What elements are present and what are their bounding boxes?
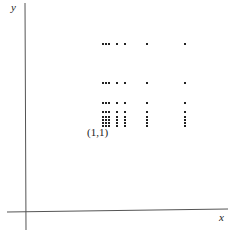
point-annotation-1-1: (1,1) xyxy=(87,127,108,138)
y-axis xyxy=(25,3,26,230)
data-point xyxy=(124,116,126,118)
scatter-plot xyxy=(0,0,232,241)
data-point xyxy=(105,119,107,121)
data-point xyxy=(146,102,148,104)
data-point xyxy=(108,82,110,84)
data-point xyxy=(105,116,107,118)
data-point xyxy=(124,111,126,113)
data-point xyxy=(102,102,104,104)
data-point xyxy=(146,82,148,84)
x-axis xyxy=(7,209,228,212)
data-point xyxy=(184,125,186,127)
data-point xyxy=(116,122,118,124)
data-point xyxy=(146,122,148,124)
data-point xyxy=(146,125,148,127)
data-point xyxy=(184,119,186,121)
data-point xyxy=(184,116,186,118)
data-point xyxy=(116,102,118,104)
data-point xyxy=(124,102,126,104)
data-point xyxy=(146,119,148,121)
data-point xyxy=(105,43,107,45)
data-point xyxy=(116,119,118,121)
data-point xyxy=(108,43,110,45)
data-point xyxy=(108,116,110,118)
data-point xyxy=(105,102,107,104)
y-axis-label: y xyxy=(11,2,16,13)
data-point xyxy=(146,43,148,45)
data-point xyxy=(108,122,110,124)
data-point xyxy=(116,82,118,84)
data-point xyxy=(108,119,110,121)
data-point xyxy=(105,111,107,113)
data-point xyxy=(184,122,186,124)
data-point xyxy=(105,122,107,124)
data-point xyxy=(116,125,118,127)
data-point xyxy=(124,119,126,121)
data-point xyxy=(116,43,118,45)
data-point xyxy=(116,111,118,113)
data-point xyxy=(146,111,148,113)
data-point xyxy=(184,111,186,113)
data-point xyxy=(116,116,118,118)
data-point xyxy=(124,125,126,127)
data-points xyxy=(102,43,186,127)
data-point xyxy=(102,111,104,113)
data-point xyxy=(108,111,110,113)
data-point xyxy=(184,82,186,84)
data-point xyxy=(124,122,126,124)
data-point xyxy=(124,43,126,45)
data-point xyxy=(102,119,104,121)
data-point xyxy=(108,102,110,104)
data-point xyxy=(108,125,110,127)
data-point xyxy=(102,116,104,118)
data-point xyxy=(124,82,126,84)
data-point xyxy=(102,122,104,124)
data-point xyxy=(105,82,107,84)
data-point xyxy=(102,82,104,84)
data-point xyxy=(184,102,186,104)
x-axis-label: x xyxy=(219,212,224,223)
data-point xyxy=(102,43,104,45)
data-point xyxy=(146,116,148,118)
data-point xyxy=(184,43,186,45)
